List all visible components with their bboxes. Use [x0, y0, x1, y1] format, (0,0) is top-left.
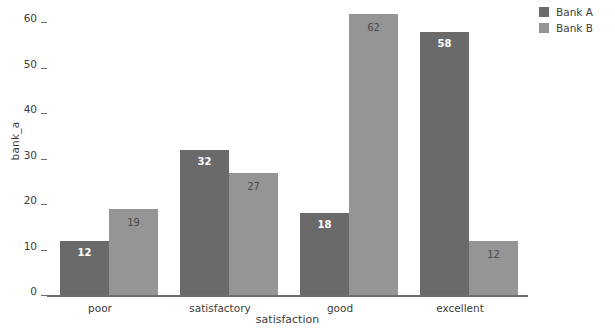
- x-axis-label: satisfaction: [47, 313, 528, 326]
- bar-poor-bank-a[interactable]: 12: [60, 241, 109, 295]
- y-tick-label-10: 10: [3, 241, 37, 252]
- legend-item-bank-a[interactable]: Bank A: [539, 4, 611, 19]
- bar-label-good-bank-a: 18: [300, 220, 349, 230]
- plot-area: 60 50 40 30 20 10 0 12: [47, 14, 528, 297]
- bar-excellent-bank-a[interactable]: 58: [420, 32, 469, 295]
- legend-item-bank-b[interactable]: Bank B: [539, 20, 611, 35]
- legend-label-bank-a: Bank A: [556, 6, 593, 18]
- bar-label-excellent-bank-b: 12: [469, 250, 518, 260]
- bar-label-good-bank-b: 62: [349, 23, 398, 33]
- x-tick-label-excellent: excellent: [380, 302, 540, 314]
- bar-poor-bank-b[interactable]: 19: [109, 209, 158, 295]
- legend-label-bank-b: Bank B: [556, 22, 593, 34]
- bar-chart: bank_a satisfaction 60 50 40 30 20 10: [0, 0, 615, 334]
- bar-label-poor-bank-b: 19: [109, 218, 158, 228]
- bar-group-good: 18 62: [300, 14, 398, 295]
- bar-label-excellent-bank-a: 58: [420, 39, 469, 49]
- legend-swatch-icon-bank-b: [539, 23, 549, 33]
- bar-good-bank-a[interactable]: 18: [300, 213, 349, 295]
- bar-label-satisfactory-bank-b: 27: [229, 182, 278, 192]
- bar-excellent-bank-b[interactable]: 12: [469, 241, 518, 295]
- bar-group-poor: 12 19: [60, 14, 158, 295]
- y-tick-label-30: 30: [3, 150, 37, 161]
- bar-group-excellent: 58 12: [420, 14, 518, 295]
- bar-label-poor-bank-a: 12: [60, 248, 109, 258]
- y-tick-label-50: 50: [3, 59, 37, 70]
- x-axis-line: [47, 295, 528, 297]
- legend-swatch-icon-bank-a: [539, 7, 549, 17]
- y-tick-label-40: 40: [3, 104, 37, 115]
- bar-group-satisfactory: 32 27: [180, 14, 278, 295]
- legend: Bank A Bank B: [539, 4, 611, 36]
- y-tick-label-20: 20: [3, 195, 37, 206]
- y-tick-label-60: 60: [3, 13, 37, 24]
- bar-satisfactory-bank-a[interactable]: 32: [180, 150, 229, 295]
- bar-label-satisfactory-bank-a: 32: [180, 157, 229, 167]
- bar-satisfactory-bank-b[interactable]: 27: [229, 173, 278, 295]
- y-axis-label: bank_a: [9, 106, 21, 176]
- y-tick-label-0: 0: [3, 286, 37, 297]
- bar-good-bank-b[interactable]: 62: [349, 14, 398, 295]
